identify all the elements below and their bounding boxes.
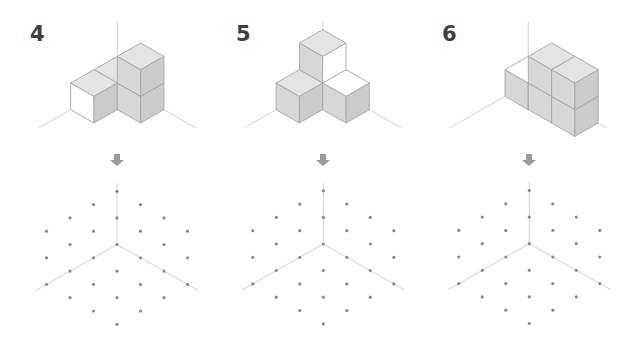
- arrows: [110, 154, 536, 166]
- grid-dot: [68, 296, 71, 299]
- grid-dot: [575, 269, 578, 272]
- grid-dot: [115, 270, 118, 273]
- grid-dot: [115, 323, 118, 326]
- grid-dot: [139, 230, 142, 233]
- grid-left-axis: [242, 244, 323, 290]
- grid-dot: [45, 256, 48, 259]
- grid-dot: [115, 190, 118, 193]
- grid-dot: [251, 282, 254, 285]
- grid-dot: [45, 283, 48, 286]
- grid-dot: [504, 309, 507, 312]
- grid-dot: [528, 295, 531, 298]
- grid-dot: [345, 282, 348, 285]
- cube-figure-6: [450, 22, 606, 136]
- grid-right-axis: [117, 245, 198, 291]
- grid-dot: [369, 269, 372, 272]
- grid-right-axis: [529, 244, 610, 290]
- grid-dot: [528, 269, 531, 272]
- grid-dot: [275, 296, 278, 299]
- grid-dot: [504, 255, 507, 258]
- grid-dot: [162, 243, 165, 246]
- grid-dot: [551, 282, 554, 285]
- grid-dot: [298, 309, 301, 312]
- grid-dot: [68, 270, 71, 273]
- grid-dot: [481, 295, 484, 298]
- grid-dot: [551, 309, 554, 312]
- grid-dot: [322, 322, 325, 325]
- grid-dot: [92, 309, 95, 312]
- dot-grid-6: [448, 183, 610, 326]
- grid-dot: [139, 309, 142, 312]
- grid-dot: [139, 256, 142, 259]
- grid-dot: [322, 242, 325, 245]
- grid-dot: [345, 203, 348, 206]
- grid-dot: [139, 203, 142, 206]
- grid-left-axis: [448, 244, 529, 290]
- down-arrow-icon: [110, 154, 124, 166]
- grid-dot: [481, 216, 484, 219]
- grid-dot: [528, 322, 531, 325]
- dot-grid-4: [36, 183, 198, 326]
- grid-dot: [92, 230, 95, 233]
- grid-dot: [68, 216, 71, 219]
- grid-dot: [298, 256, 301, 259]
- grid-dot: [162, 270, 165, 273]
- grid-dot: [322, 296, 325, 299]
- grid-dot: [298, 282, 301, 285]
- grid-dot: [162, 296, 165, 299]
- grid-dot: [504, 202, 507, 205]
- grid-dot: [598, 282, 601, 285]
- grid-dot: [598, 229, 601, 232]
- grid-dot: [322, 269, 325, 272]
- grid-dot: [575, 216, 578, 219]
- grid-dot: [45, 230, 48, 233]
- grid-dot: [504, 229, 507, 232]
- grid-dot: [251, 256, 254, 259]
- grid-dot: [92, 256, 95, 259]
- grid-dot: [551, 202, 554, 205]
- grid-dot: [298, 229, 301, 232]
- grid-dot: [551, 229, 554, 232]
- grid-dot: [345, 229, 348, 232]
- grid-right-axis: [323, 244, 404, 290]
- grid-dot: [481, 242, 484, 245]
- grid-dot: [504, 282, 507, 285]
- dot-grid-5: [242, 183, 404, 326]
- grid-dot: [275, 216, 278, 219]
- grid-dot: [575, 295, 578, 298]
- grid-dot: [322, 189, 325, 192]
- down-arrow-icon: [316, 154, 330, 166]
- grid-dot: [186, 256, 189, 259]
- down-arrow-icon: [522, 154, 536, 166]
- grid-dot: [528, 216, 531, 219]
- grid-dot: [528, 189, 531, 192]
- grid-dot: [186, 283, 189, 286]
- grid-dot: [457, 282, 460, 285]
- grid-dot: [598, 255, 601, 258]
- cube-figure-5: [245, 22, 401, 128]
- grid-dot: [575, 242, 578, 245]
- grid-dot: [298, 203, 301, 206]
- grid-dot: [251, 229, 254, 232]
- grid-dot: [115, 216, 118, 219]
- grid-dot: [162, 216, 165, 219]
- grid-dot: [115, 243, 118, 246]
- grid-dot: [457, 229, 460, 232]
- grid-dot: [186, 230, 189, 233]
- grid-dot: [92, 203, 95, 206]
- grid-dot: [369, 296, 372, 299]
- grid-dot: [275, 269, 278, 272]
- grid-dot: [322, 216, 325, 219]
- cube-figure-4: [39, 22, 195, 128]
- grid-dot: [68, 243, 71, 246]
- grid-dot: [392, 229, 395, 232]
- diagram-canvas: [0, 0, 639, 349]
- grid-dot: [481, 269, 484, 272]
- grid-dot: [392, 282, 395, 285]
- grid-dot: [392, 256, 395, 259]
- grid-dot: [275, 242, 278, 245]
- grid-dot: [551, 255, 554, 258]
- grid-dot: [528, 242, 531, 245]
- grid-dot: [369, 216, 372, 219]
- grid-dot: [457, 255, 460, 258]
